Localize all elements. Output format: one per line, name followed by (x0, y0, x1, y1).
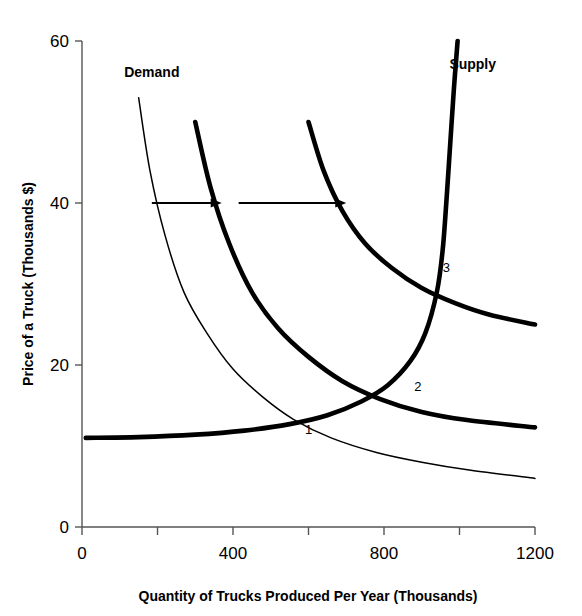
supply-demand-chart: 0204060 04008001200 DemandSupply 123 Qua… (0, 0, 582, 616)
x-tick-label: 1200 (516, 544, 554, 563)
y-axis-ticks: 0204060 (50, 32, 82, 537)
equilibrium-point-1: 1 (305, 422, 312, 437)
curve-labels-group: DemandSupply (124, 56, 496, 80)
equilibrium-point-2: 2 (414, 379, 421, 394)
chart-canvas: 0204060 04008001200 DemandSupply 123 Qua… (0, 0, 582, 616)
x-tick-label: 800 (370, 544, 398, 563)
axes-group (82, 41, 535, 527)
x-axis-title: Quantity of Trucks Produced Per Year (Th… (139, 588, 478, 604)
curve-demand-3 (309, 122, 536, 325)
y-tick-label: 40 (50, 194, 69, 213)
equilibrium-point-3: 3 (443, 260, 450, 275)
x-tick-label: 400 (219, 544, 247, 563)
shift-arrows-group (152, 198, 346, 207)
x-axis-ticks: 04008001200 (77, 527, 554, 563)
curves-group (86, 41, 535, 478)
curve-label-demand: Demand (124, 64, 179, 80)
x-tick-label: 0 (77, 544, 86, 563)
demand-shift-arrow-1 (152, 198, 222, 207)
y-tick-label: 60 (50, 32, 69, 51)
curve-supply (86, 41, 458, 438)
y-axis-title: Price of a Truck (Thousands $) (20, 182, 36, 386)
demand-shift-arrow-2 (239, 198, 347, 207)
y-tick-label: 20 (50, 356, 69, 375)
equilibrium-point-labels: 123 (305, 260, 450, 437)
curve-label-supply: Supply (449, 56, 496, 72)
y-tick-label: 0 (60, 518, 69, 537)
